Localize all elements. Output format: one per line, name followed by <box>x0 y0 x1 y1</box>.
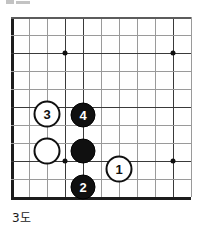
grid-line-horizontal-9 <box>11 179 191 180</box>
grid-line-vertical-10 <box>191 17 192 197</box>
grid-line-horizontal-10 <box>11 197 191 200</box>
stone-white-1[interactable]: 1 <box>106 156 133 183</box>
stone-black-2[interactable]: 2 <box>71 175 96 200</box>
stone-black-plain[interactable] <box>71 139 96 164</box>
star-point-3 <box>171 159 176 164</box>
grid-line-horizontal-4 <box>11 89 191 90</box>
star-point-0 <box>63 51 68 56</box>
stone-black-4[interactable]: 4 <box>71 103 96 128</box>
star-point-1 <box>63 159 68 164</box>
go-board[interactable]: 3412 <box>11 17 191 197</box>
grid-line-horizontal-0 <box>11 17 191 19</box>
star-point-2 <box>171 51 176 56</box>
grid-line-horizontal-3 <box>11 71 191 72</box>
go-diagram-figure: 3412 3도 <box>0 0 213 227</box>
figure-caption: 3도 <box>12 208 31 225</box>
stone-white-3[interactable]: 3 <box>34 101 61 128</box>
grid-line-horizontal-6 <box>11 125 191 126</box>
stone-white-plain[interactable] <box>34 138 61 165</box>
grid-line-horizontal-1 <box>11 35 191 36</box>
grid-line-horizontal-2 <box>11 53 191 54</box>
